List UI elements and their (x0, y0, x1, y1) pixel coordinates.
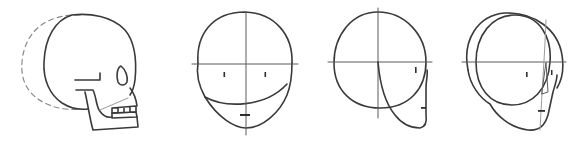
tq-mouth (538, 110, 545, 112)
skull-back-dashed-outline (22, 15, 80, 109)
figure-canvas (0, 0, 581, 142)
cranium-outline (44, 14, 136, 109)
front-face-lower (197, 63, 292, 128)
lower-teeth (112, 112, 137, 118)
side-mouth (421, 107, 426, 109)
front-left-eye (224, 72, 226, 77)
head-front-panel (192, 12, 298, 135)
tq-eye-far (551, 70, 553, 75)
cheekbone-line (75, 73, 100, 80)
eye-socket (117, 66, 127, 85)
nasal-front-outline (130, 88, 137, 106)
head-side-panel (328, 8, 432, 128)
side-cranium-circle (334, 12, 426, 108)
head-three-quarter-panel (462, 13, 566, 130)
tq-vertical-guide (540, 20, 546, 130)
skull-side-panel (22, 14, 138, 130)
sketch-illustration (0, 0, 581, 142)
side-jaw-outline (378, 62, 427, 128)
front-right-eye (265, 72, 267, 77)
tq-eye-near (526, 72, 528, 77)
tq-inner-circle (476, 15, 550, 105)
side-eye (415, 67, 417, 73)
front-mouth (240, 114, 250, 116)
tq-outer-cranium (467, 13, 563, 88)
front-cranium-circle (198, 12, 292, 63)
